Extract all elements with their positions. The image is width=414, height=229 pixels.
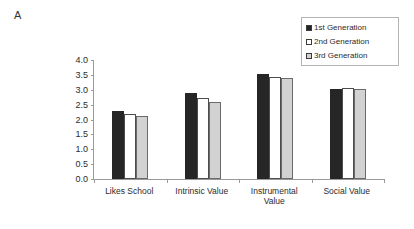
legend-swatch-white-icon: [306, 39, 312, 45]
legend-swatch-gray-icon: [306, 53, 312, 59]
bar: [330, 89, 342, 179]
bar: [354, 89, 366, 179]
legend-swatch-black-icon: [306, 25, 312, 31]
bar: [197, 98, 209, 179]
bar: [342, 88, 354, 179]
figure-panel-a: A 1st Generation 2nd Generation 3rd Gene…: [0, 0, 414, 229]
bar: [281, 78, 293, 179]
x-axis-category-label: InstrumentalValue: [238, 186, 311, 206]
bar: [269, 77, 281, 179]
bar: [136, 116, 148, 179]
legend-label-2nd-generation: 2nd Generation: [314, 37, 369, 46]
bar-group: [167, 60, 240, 179]
plot-area: 4.03.53.02.52.01.51.00.50.0: [93, 60, 384, 180]
bar-group: [239, 60, 312, 179]
x-axis-category-label-line: Instrumental: [238, 186, 311, 196]
x-axis-tickmark: [239, 179, 240, 183]
x-axis-tickmark: [167, 179, 168, 183]
x-axis-tickmark: [94, 179, 95, 183]
x-axis-category-labels: Likes SchoolIntrinsic ValueInstrumentalV…: [93, 186, 383, 206]
x-axis-category-label-line: Intrinsic Value: [166, 186, 239, 196]
legend-item-2nd-generation: 2nd Generation: [306, 35, 394, 48]
bar-group: [94, 60, 167, 179]
x-axis-tickmark: [384, 179, 385, 183]
legend-label-1st-generation: 1st Generation: [314, 23, 366, 32]
panel-label: A: [14, 9, 22, 21]
x-axis-category-label-line: Social Value: [311, 186, 384, 196]
bar: [185, 93, 197, 179]
x-axis-category-label: Likes School: [93, 186, 166, 206]
legend-label-3rd-generation: 3rd Generation: [314, 51, 367, 60]
bar: [124, 114, 136, 179]
bar: [209, 102, 221, 179]
legend-item-1st-generation: 1st Generation: [306, 21, 394, 34]
bar-groups: [94, 60, 384, 179]
bar: [112, 111, 124, 179]
x-axis-category-label-line: Likes School: [93, 186, 166, 196]
chart-legend: 1st Generation 2nd Generation 3rd Genera…: [301, 17, 399, 66]
x-axis-category-label-line: Value: [238, 196, 311, 206]
x-axis-tickmark: [312, 179, 313, 183]
x-axis-category-label: Social Value: [311, 186, 384, 206]
bar-group: [312, 60, 385, 179]
x-axis-category-label: Intrinsic Value: [166, 186, 239, 206]
bar: [257, 74, 269, 179]
